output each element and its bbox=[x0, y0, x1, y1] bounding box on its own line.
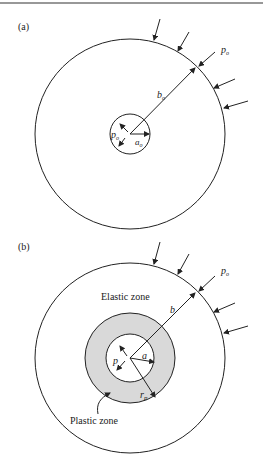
panel-b: (b) Elastic zone b a rp p Plastic zone bbox=[18, 241, 248, 453]
radius-a-label-a: ao bbox=[135, 137, 143, 148]
radius-b-arrow-a bbox=[130, 68, 195, 134]
panel-a-label: (a) bbox=[18, 21, 29, 33]
elastic-zone-label: Elastic zone bbox=[101, 291, 150, 302]
radius-b-label-a: bo bbox=[157, 89, 165, 101]
outer-pressure-label-a: po bbox=[220, 44, 229, 56]
cavity-expansion-diagram: (a) bo ao po po (b) bbox=[0, 0, 263, 470]
plastic-zone-label: Plastic zone bbox=[70, 415, 119, 426]
panel-b-label: (b) bbox=[18, 241, 30, 253]
outer-pressure-label-b: po bbox=[220, 265, 229, 277]
radius-a-label-b: a bbox=[142, 350, 147, 361]
panel-a: (a) bo ao po po bbox=[18, 19, 248, 229]
inner-pressure-label-b: p bbox=[112, 355, 118, 366]
inner-pressure-arrow-up-a bbox=[120, 124, 128, 132]
inner-pressure-arrow-down-a bbox=[119, 138, 125, 146]
radius-b-label-b: b bbox=[170, 304, 175, 315]
inner-pressure-label-a: po bbox=[110, 129, 119, 141]
